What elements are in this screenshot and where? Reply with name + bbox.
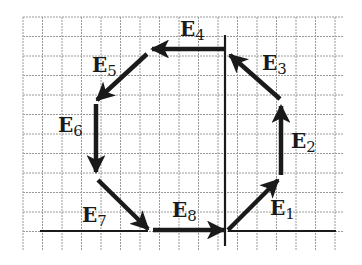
vector-polygon-diagram: E1E2E3E4E5E6E7E8 (0, 0, 362, 265)
